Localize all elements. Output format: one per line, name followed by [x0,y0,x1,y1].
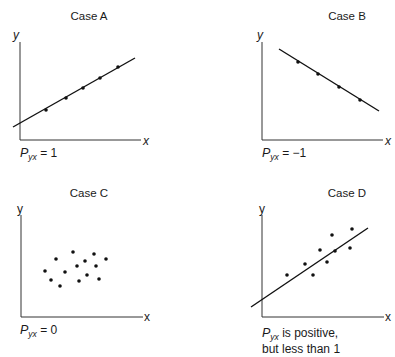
data-point [285,273,289,277]
data-points [44,65,120,112]
x-axis-label: x [384,134,392,148]
y-axis-label: y [256,28,264,42]
data-point [81,86,85,90]
y-axis-label: y [12,28,20,42]
data-point [92,252,96,256]
regression-line [279,49,379,111]
data-point [296,60,300,64]
data-point [94,264,98,268]
correlation-caption: Pyx is positive, [262,326,338,342]
regression-line [251,228,368,307]
data-points [43,250,108,288]
panel-case-c: Case C y x Pyx = 0 [17,187,150,339]
data-point [83,259,87,263]
correlation-caption-line2: but less than 1 [262,342,340,356]
panel-title: Case D [328,187,366,199]
x-axis-label: x [142,134,150,148]
correlation-caption: Pyx = 0 [20,323,58,339]
panel-title: Case C [70,187,108,199]
data-point [311,273,315,277]
data-point [58,284,62,288]
data-point [318,248,322,252]
data-point [350,227,354,231]
data-point [325,260,329,264]
panel-case-a: Case A y x Pyx = 1 [12,10,150,162]
data-point [43,269,47,273]
data-points [285,227,354,277]
data-point [358,98,362,102]
data-point [116,65,120,69]
data-point [49,278,53,282]
correlation-caption: Pyx = 1 [20,146,58,162]
data-point [85,273,89,277]
data-point [54,257,58,261]
data-point [337,85,341,89]
panel-case-b: Case B y x Pyx = −1 [256,10,392,162]
panel-title: Case A [70,10,107,22]
data-point [75,264,79,268]
y-axis-label: y [17,202,23,216]
data-point [44,108,48,112]
correlation-caption: Pyx = −1 [262,146,307,162]
data-point [77,279,81,283]
y-axis-label: y [259,202,265,216]
data-point [64,96,68,100]
data-point [348,246,352,250]
data-point [98,76,102,80]
regression-line [13,58,135,127]
data-point [97,277,101,281]
data-point [104,257,108,261]
correlation-figure: Case A y x Pyx = 1 Case B y x Pyx = −1 C… [0,0,395,357]
panel-case-d: Case D y x Pyx is positive, but less tha… [251,187,391,356]
data-point [303,262,307,266]
data-point [330,233,334,237]
data-point [316,72,320,76]
x-axis-label: x [144,310,150,324]
data-point [71,250,75,254]
x-axis-label: x [385,310,391,324]
data-point [63,270,67,274]
data-point [333,249,337,253]
panel-title: Case B [328,10,366,22]
